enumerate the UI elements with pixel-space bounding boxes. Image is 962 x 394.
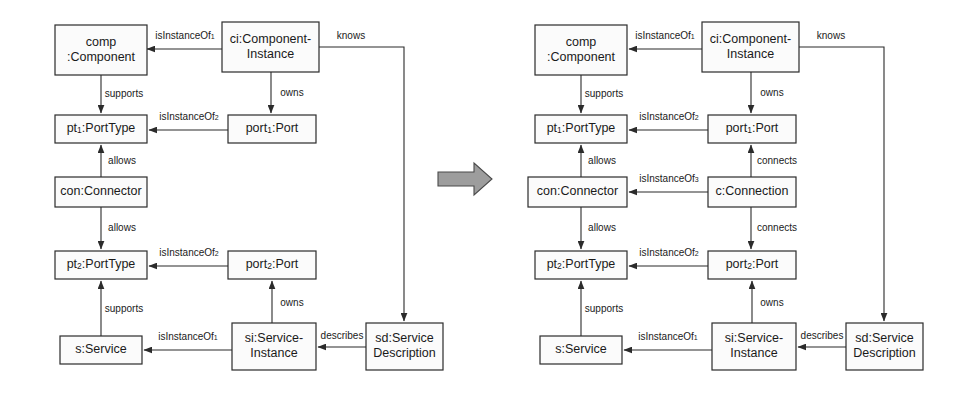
node-comp-component-label: comp [86,35,117,49]
edge-isinstanceof1-si-s-label: isInstanceOf1 [638,331,698,342]
node-pt1-porttype-label: pt1:PortType [67,121,136,135]
edge-owns-si-port2-label: owns [280,297,303,308]
node-port2-port-label: port2:Port [246,257,299,271]
node-ci-component-instance-label: ci:Component- [710,32,791,46]
node-port1-port[interactable]: port1:Port [708,115,796,143]
node-ci-component-instance[interactable]: ci:Component-Instance [702,22,799,72]
edge-owns-si-port2-label: owns [760,297,783,308]
edge-connects-conn-port2-label: connects [757,222,797,233]
edge-isinstanceof2-port2-pt2-label: isInstanceOf2 [639,247,699,258]
edge-supports-s-pt2-label: supports [585,303,623,314]
node-con-connector-label: con:Connector [60,184,141,198]
edge-describes-sd-si-label: describes [801,330,844,341]
edge-allows-con-pt1-label: allows [108,155,136,166]
node-sd-service-description[interactable]: sd:ServiceDescription [366,323,443,370]
node-sd-service-description-label: Description [373,346,436,360]
node-comp-component-label: :Component [547,50,616,64]
edge-allows-con-pt1-label: allows [588,155,616,166]
node-con-connector[interactable]: con:Connector [55,177,147,207]
edge-isinstanceof3-conn-con-label: isInstanceOf3 [639,173,699,184]
node-si-service-instance-label: Instance [250,346,297,360]
node-pt2-porttype-label: pt2:PortType [67,257,136,271]
node-c-connection[interactable]: c:Connection [708,177,796,207]
node-si-service-instance[interactable]: si:Service-Instance [712,323,796,370]
node-s-service[interactable]: s:Service [60,336,142,364]
node-port2-port-label: port2:Port [726,257,779,271]
edge-supports-comp-pt1-label: supports [105,88,143,99]
edge-isinstanceof1-ci-comp-label: isInstanceOf1 [635,30,695,41]
node-sd-service-description-label: Description [853,346,916,360]
edge-isinstanceof1-si-s-label: isInstanceOf1 [158,331,218,342]
node-pt1-porttype[interactable]: pt1:PortType [535,115,627,143]
node-sd-service-description-label: sd:Service [375,331,433,345]
node-pt2-porttype-label: pt2:PortType [547,257,616,271]
edge-connects-conn-port1-label: connects [757,155,797,166]
edge-owns-ci-port1-label: owns [760,87,783,98]
node-port2-port[interactable]: port2:Port [228,251,316,279]
node-comp-component[interactable]: comp:Component [55,25,147,75]
node-comp-component[interactable]: comp:Component [535,25,627,75]
edge-isinstanceof2-port1-pt1-label: isInstanceOf2 [159,111,219,122]
node-comp-component-label: comp [566,35,597,49]
node-port2-port[interactable]: port2:Port [708,251,796,279]
node-pt1-porttype-label: pt1:PortType [547,121,616,135]
node-con-connector-label: con:Connector [537,184,618,198]
node-si-service-instance[interactable]: si:Service-Instance [232,323,316,370]
node-pt2-porttype[interactable]: pt2:PortType [55,251,147,279]
model-transformation-figure: isInstanceOf1knowssupportsownsisInstance… [0,0,962,394]
node-comp-component-label: :Component [67,50,136,64]
edge-knows-ci-sd-label: knows [337,30,365,41]
node-sd-service-description[interactable]: sd:ServiceDescription [846,323,923,370]
edge-supports-comp-pt1-label: supports [585,88,623,99]
node-pt2-porttype[interactable]: pt2:PortType [535,251,627,279]
edge-owns-ci-port1-label: owns [280,87,303,98]
node-si-service-instance-label: Instance [730,346,777,360]
edge-supports-s-pt2-label: supports [105,303,143,314]
node-si-service-instance-label: si:Service- [725,331,783,345]
node-port1-port-label: port1:Port [246,121,299,135]
node-c-connection-label: c:Connection [716,184,789,198]
node-sd-service-description-label: sd:Service [855,331,913,345]
node-port1-port[interactable]: port1:Port [228,115,316,143]
node-con-connector[interactable]: con:Connector [528,177,627,207]
node-ci-component-instance-label: Instance [727,47,774,61]
edge-knows-ci-sd-label: knows [817,30,845,41]
edge-allows-con-pt2-label: allows [108,222,136,233]
node-si-service-instance-label: si:Service- [245,331,303,345]
node-s-service[interactable]: s:Service [540,336,622,364]
node-ci-component-instance-label: ci:Component- [230,32,311,46]
edge-isinstanceof1-ci-comp-label: isInstanceOf1 [155,30,215,41]
node-ci-component-instance[interactable]: ci:Component-Instance [222,22,319,72]
node-s-service-label: s:Service [75,342,126,356]
edge-isinstanceof2-port2-pt2-label: isInstanceOf2 [159,247,219,258]
edge-allows-con-pt2-label: allows [588,222,616,233]
node-port1-port-label: port1:Port [726,121,779,135]
node-ci-component-instance-label: Instance [247,47,294,61]
edge-describes-sd-si-label: describes [321,330,364,341]
edge-isinstanceof2-port1-pt1-label: isInstanceOf2 [639,111,699,122]
node-pt1-porttype[interactable]: pt1:PortType [55,115,147,143]
node-s-service-label: s:Service [555,342,606,356]
